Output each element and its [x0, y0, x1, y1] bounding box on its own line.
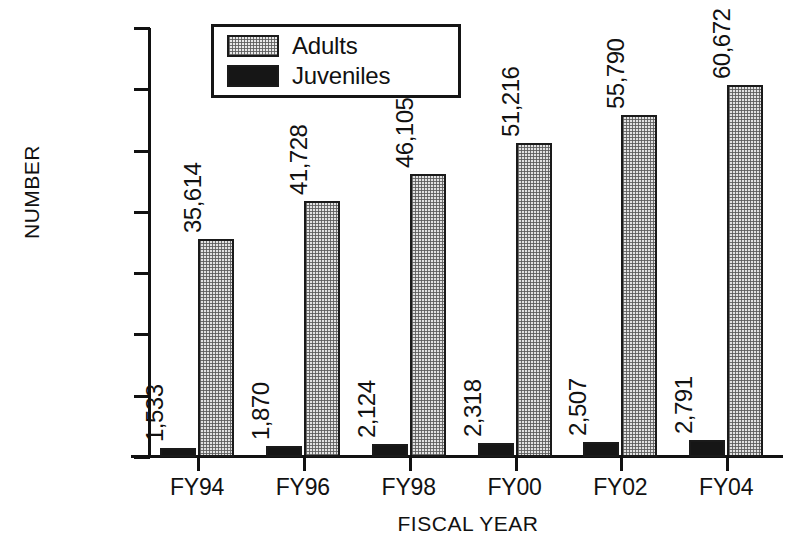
x-axis-tick-mark [409, 455, 412, 471]
bar-juveniles[interactable] [372, 444, 408, 457]
x-axis-tick-label: FY00 [455, 474, 575, 501]
bar-juveniles[interactable] [160, 448, 196, 457]
bar-value-label: 41,728 [287, 125, 311, 195]
x-axis-tick-mark [197, 455, 200, 471]
bar-value-label: 60,672 [710, 9, 734, 79]
chart-legend: Adults Juveniles [211, 24, 461, 98]
x-axis-tick-label: FY02 [560, 474, 680, 501]
bar-chart: NUMBER FISCAL YEAR 010,00020,00030,00040… [0, 0, 792, 547]
bar-adults[interactable] [198, 239, 234, 457]
x-axis-tick-label: FY98 [349, 474, 469, 501]
bar-value-label: 35,614 [181, 162, 205, 232]
y-axis-title: NUMBER [20, 112, 44, 272]
bar-adults[interactable] [621, 115, 657, 457]
bar-value-label: 2,318 [461, 379, 485, 437]
bar-adults[interactable] [410, 174, 446, 457]
bar-value-label: 2,791 [672, 376, 696, 434]
legend-item-adults: Adults [227, 33, 358, 59]
bar-value-label: 2,507 [566, 378, 590, 436]
bar-value-label: 46,105 [393, 98, 417, 168]
bar-adults[interactable] [727, 85, 763, 457]
x-axis-tick-mark [303, 455, 306, 471]
x-axis-tick-label: FY04 [666, 474, 786, 501]
legend-label-juveniles: Juveniles [292, 62, 390, 90]
bar-group: 2,79160,672 [689, 28, 763, 457]
bar-value-label: 2,124 [355, 380, 379, 438]
x-axis-title: FISCAL YEAR [148, 512, 788, 536]
bar-value-label: 1,533 [143, 384, 167, 442]
bar-juveniles[interactable] [583, 442, 619, 457]
bar-group: 2,31851,216 [478, 28, 552, 457]
legend-swatch-juveniles-icon [227, 65, 279, 87]
bar-value-label: 55,790 [604, 39, 628, 109]
legend-swatch-adults-icon [227, 35, 279, 57]
bar-adults[interactable] [516, 143, 552, 457]
x-axis-tick-label: FY96 [243, 474, 363, 501]
bar-juveniles[interactable] [266, 446, 302, 457]
bar-juveniles[interactable] [478, 443, 514, 457]
bar-value-label: 1,870 [249, 382, 273, 440]
x-axis-tick-mark [515, 455, 518, 471]
legend-item-juveniles: Juveniles [227, 63, 390, 89]
x-axis-tick-mark [620, 455, 623, 471]
bar-juveniles[interactable] [689, 440, 725, 457]
bar-value-label: 51,216 [499, 67, 523, 137]
x-axis-tick-label: FY94 [137, 474, 257, 501]
legend-label-adults: Adults [292, 32, 358, 60]
x-axis-tick-mark [726, 455, 729, 471]
bar-adults[interactable] [304, 201, 340, 457]
bar-group: 2,50755,790 [583, 28, 657, 457]
